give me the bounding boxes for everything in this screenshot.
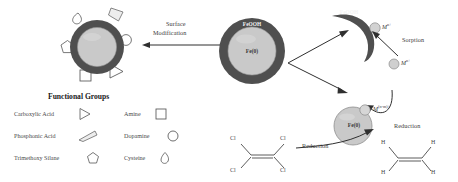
pce-cl-top-left: Cl (230, 135, 236, 141)
metal-ion-reduced-label: M(n-m)+ (373, 104, 390, 112)
center-core-highlight (236, 35, 256, 44)
pentagon-icon (86, 151, 100, 165)
sorption-label: Sorption (402, 36, 424, 43)
ethylene-h-bottom-left: H (381, 169, 385, 175)
teardrop-icon (159, 151, 171, 165)
diagram-canvas: Surface Modification FeOOH Fe(0) (0, 0, 458, 182)
ethylene-h-bottom-right: H (431, 169, 435, 175)
reduced-metal-ion-sphere (360, 105, 370, 115)
pce-cl-top-right: Cl (280, 135, 286, 141)
sorbed-metal-ion-sphere (370, 23, 380, 33)
triangle-right-icon (78, 107, 92, 121)
pce-cl-bottom-left: Cl (230, 167, 236, 173)
circle-icon (166, 129, 180, 143)
ethylene-h-top-left: H (381, 139, 385, 145)
metal-ion-top-charge: n+ (387, 22, 391, 27)
crescent-shell-label: FeOOH (332, 9, 366, 15)
legend-item-dopamine-label: Dopamine (124, 133, 149, 139)
modified-nanoparticle-svg (52, 4, 150, 92)
attached-teardrop-icon (73, 13, 82, 24)
square-icon (154, 107, 168, 121)
legend-item-phosphonic-acid-label: Phosphonic Acid (14, 133, 55, 139)
center-shell-label: FeOOH (216, 21, 288, 27)
crescent-shell (332, 14, 374, 62)
metal-ion-top-label: Mn+ (382, 22, 391, 30)
center-core-label: Fe(0) (216, 48, 288, 54)
legend-item-amine-label: Amine (124, 111, 141, 117)
sorption-branch-group: FeOOH Mn+ Sorption Mn+ (326, 2, 458, 82)
legend-item-carboxylic-acid-label: Carboxylic Acid (14, 111, 54, 117)
ethylene-icon (376, 138, 448, 182)
legend-item-cysteine-label: Cysteine (124, 155, 145, 161)
phosphonic-sliver-icon (78, 129, 98, 143)
legend-heading: Functional Groups (48, 92, 109, 101)
center-nanoparticle-group: FeOOH Fe(0) (216, 15, 288, 87)
ethylene-h-top-right: H (431, 139, 435, 145)
legend-item-trimethoxy-silane-label: Trimethoxy Silane (14, 155, 59, 161)
free-metal-ion-sphere (389, 59, 399, 69)
functional-groups-legend: Functional Groups Carboxylic Acid Phosph… (14, 92, 224, 178)
tetrachloroethylene-icon (228, 132, 302, 180)
metal-ion-bottom-label: Mn+ (401, 58, 410, 66)
surface-modification-label-line2: Modification (153, 29, 187, 36)
pce-cl-bottom-right: Cl (280, 167, 286, 173)
surface-modification-label-line1: Surface (166, 20, 186, 27)
core-highlight (83, 33, 101, 41)
attached-phosphonic-sliver-icon (109, 8, 124, 21)
metal-ion-bottom-charge: n+ (406, 58, 410, 63)
reduction-organic-label: Reduction (302, 142, 328, 149)
modified-particle-core (78, 28, 117, 67)
sorption-arrow-line (376, 35, 398, 56)
lower-core-highlight (339, 114, 355, 121)
metal-ion-reduced-charge: (n-m)+ (378, 104, 390, 109)
modified-nanoparticle-group (52, 4, 150, 92)
organic-reduction-group: Cl Cl Cl Cl Reduction H H H H (228, 126, 458, 182)
